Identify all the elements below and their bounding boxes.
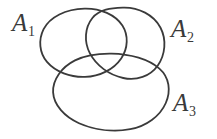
venn-diagram-figure: A1 A2 A3	[0, 0, 217, 139]
set-label-a1: A1	[12, 10, 35, 39]
set-label-a1-base: A	[12, 9, 27, 36]
set-label-a2-base: A	[171, 15, 186, 42]
set-label-a3: A3	[173, 90, 196, 119]
set-label-a2: A2	[171, 16, 194, 45]
set-label-a3-base: A	[173, 89, 188, 116]
ellipse-a1	[40, 9, 126, 77]
set-label-a1-subscript: 1	[28, 24, 35, 39]
ellipse-a2	[86, 8, 165, 79]
set-label-a3-subscript: 3	[189, 104, 196, 119]
set-label-a2-subscript: 2	[187, 30, 194, 45]
ellipse-a3	[53, 54, 169, 131]
